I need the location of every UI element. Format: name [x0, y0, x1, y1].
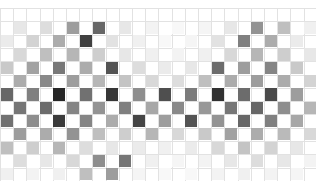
heatmap-cell	[199, 22, 211, 34]
heatmap-cell	[106, 142, 118, 154]
heatmap-cell	[278, 102, 290, 114]
heatmap-cell	[265, 62, 277, 74]
heatmap-cell	[291, 62, 303, 74]
heatmap-cell	[14, 102, 26, 114]
heatmap-cell	[14, 128, 26, 140]
heatmap-cell	[159, 115, 171, 127]
heatmap-cell	[146, 22, 158, 34]
heatmap-cell	[225, 75, 237, 87]
heatmap-cell	[251, 22, 263, 34]
heatmap-cell	[185, 168, 197, 180]
heatmap-cell	[133, 88, 145, 100]
heatmap-cell	[278, 155, 290, 167]
heatmap-cell	[93, 48, 105, 60]
heatmap-cell	[40, 155, 52, 167]
heatmap-cell	[133, 115, 145, 127]
heatmap-cell	[185, 62, 197, 74]
heatmap-cell	[1, 62, 13, 74]
heatmap-cell	[304, 22, 316, 34]
heatmap-cell	[93, 128, 105, 140]
heatmap-cell	[53, 88, 65, 100]
heatmap-cell	[93, 155, 105, 167]
heatmap-cell	[53, 142, 65, 154]
heatmap-cell	[199, 102, 211, 114]
gridline-horizontal	[0, 8, 316, 9]
heatmap-cell	[172, 75, 184, 87]
heatmap-cell	[304, 48, 316, 60]
heatmap-cell	[278, 128, 290, 140]
heatmap-cell	[119, 48, 131, 60]
heatmap-cell	[212, 115, 224, 127]
heatmap-cell	[40, 102, 52, 114]
heatmap-cell	[80, 62, 92, 74]
heatmap-cell	[199, 155, 211, 167]
heatmap-cell	[251, 75, 263, 87]
heatmap-cell	[212, 88, 224, 100]
heatmap-cell	[159, 88, 171, 100]
heatmap-cell	[212, 35, 224, 47]
heatmap-cell	[14, 75, 26, 87]
heatmap-cell	[80, 35, 92, 47]
heatmap-cell	[93, 22, 105, 34]
heatmap-cell	[304, 155, 316, 167]
heatmap-cell	[278, 22, 290, 34]
heatmap-cell	[14, 22, 26, 34]
heatmap-cell	[133, 62, 145, 74]
heatmap-cell	[146, 75, 158, 87]
heatmap-cell	[265, 142, 277, 154]
heatmap-cell	[225, 128, 237, 140]
heatmap-cell	[40, 128, 52, 140]
heatmap-cell	[199, 128, 211, 140]
heatmap-cell	[291, 168, 303, 180]
heatmap-cell	[40, 75, 52, 87]
heatmap-cell	[291, 35, 303, 47]
heatmap-cell	[185, 35, 197, 47]
heatmap-cell	[172, 22, 184, 34]
heatmap-cell	[238, 35, 250, 47]
heatmap-cell	[159, 168, 171, 180]
heatmap-cell	[265, 88, 277, 100]
heatmap-cell	[238, 168, 250, 180]
heatmap-cell	[172, 155, 184, 167]
heatmap-cell	[119, 75, 131, 87]
heatmap-cell	[172, 102, 184, 114]
heatmap-cell	[185, 88, 197, 100]
heatmap-cell	[225, 102, 237, 114]
heatmap-cell	[106, 62, 118, 74]
heatmap-cell	[133, 35, 145, 47]
heatmap-cell	[27, 62, 39, 74]
heatmap-cell	[67, 102, 79, 114]
heatmap-cell	[265, 35, 277, 47]
heatmap-cell	[106, 88, 118, 100]
heatmap-cell	[238, 115, 250, 127]
heatmap-cell	[27, 35, 39, 47]
heatmap-cell	[1, 35, 13, 47]
heatmap-cell	[67, 75, 79, 87]
heatmap-cell	[119, 155, 131, 167]
heatmap-cell	[119, 22, 131, 34]
heatmap-cell	[80, 88, 92, 100]
heatmap-cell	[1, 88, 13, 100]
heatmap-cell	[40, 48, 52, 60]
heatmap-cell	[80, 115, 92, 127]
heatmap-cell	[251, 155, 263, 167]
heatmap-cell	[159, 62, 171, 74]
heatmap-figure	[0, 0, 316, 181]
heatmap-cell	[80, 168, 92, 180]
heatmap-cell	[53, 35, 65, 47]
heatmap-cell	[119, 102, 131, 114]
heatmap-cell	[225, 48, 237, 60]
heatmap-plot-area	[0, 0, 316, 181]
heatmap-cell	[1, 168, 13, 180]
heatmap-cell	[53, 168, 65, 180]
heatmap-cell	[14, 155, 26, 167]
heatmap-cell	[119, 128, 131, 140]
heatmap-cell	[225, 22, 237, 34]
heatmap-cell	[251, 102, 263, 114]
heatmap-cell	[159, 142, 171, 154]
heatmap-cell	[106, 115, 118, 127]
heatmap-cell	[80, 142, 92, 154]
heatmap-cell	[304, 102, 316, 114]
heatmap-cell	[212, 168, 224, 180]
heatmap-cell	[172, 128, 184, 140]
